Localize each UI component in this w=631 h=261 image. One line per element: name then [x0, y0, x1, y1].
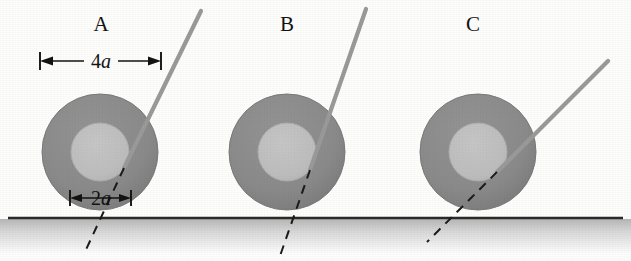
wheel-label-b: B	[280, 12, 294, 36]
ground-surface	[0, 218, 631, 253]
wheel-a-inner-hub	[71, 123, 129, 181]
dimension-outer-diameter: 4a	[40, 47, 161, 73]
string-a	[124, 11, 201, 168]
wheel-group-c: C	[420, 12, 608, 242]
wheel-label-a: A	[93, 12, 109, 36]
figure-canvas: A 4a 2a B	[0, 0, 631, 261]
wheel-b-inner-hub	[258, 123, 316, 181]
dimension-4a-arrow-right	[148, 57, 161, 66]
ground-shading	[0, 219, 631, 253]
dimension-4a-label: 4a	[91, 50, 111, 72]
wheel-label-c: C	[466, 12, 480, 36]
dimension-2a-label: 2a	[91, 187, 111, 209]
spool-wheels-figure: A 4a 2a B	[0, 0, 631, 261]
dimension-4a-arrow-left	[40, 57, 53, 66]
